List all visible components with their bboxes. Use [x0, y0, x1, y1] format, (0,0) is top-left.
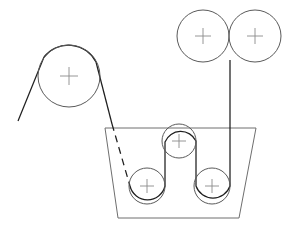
- tank-left-immersion-roller-center-mark: [140, 179, 154, 193]
- web-descent-segment: [96, 62, 112, 124]
- diagram-canvas: [0, 0, 294, 234]
- web-entry-segment: [18, 57, 44, 121]
- web-wrap-large-roller: [44, 45, 96, 62]
- web-serpentine-segment: [130, 60, 230, 200]
- large-idler-roller-center-mark: [60, 67, 78, 85]
- web-submerged-segment: [112, 124, 130, 186]
- web-coating-line-diagram: [0, 0, 294, 234]
- upper-left-nip-roller-center-mark: [195, 28, 211, 44]
- upper-right-nip-roller-center-mark: [247, 28, 263, 44]
- dip-tank-outline: [105, 128, 256, 218]
- tank-middle-roller-center-mark: [172, 134, 186, 148]
- tank-right-immersion-roller-center-mark: [205, 179, 219, 193]
